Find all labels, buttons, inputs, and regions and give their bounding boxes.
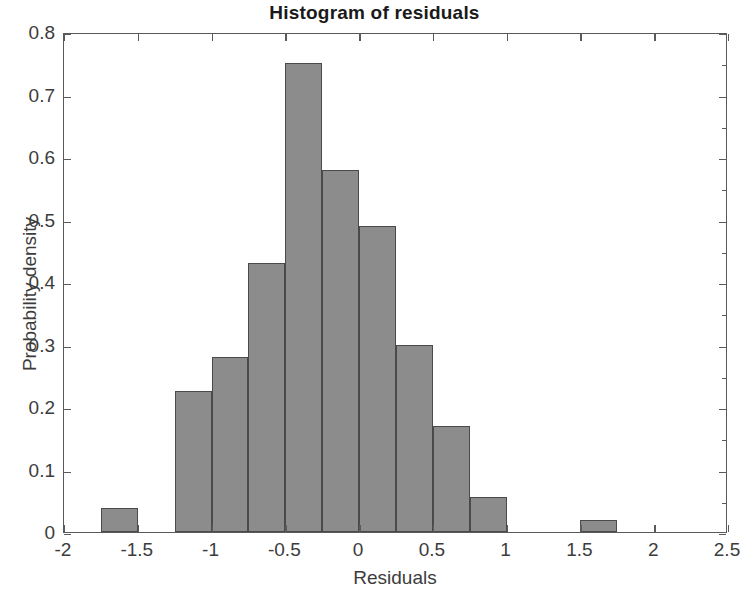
- histogram-bar: [212, 357, 249, 532]
- x-tick-mark-top: [138, 34, 139, 41]
- y-tick-mark: [64, 159, 71, 160]
- y-tick-mark-minor: [722, 65, 726, 66]
- histogram-bar: [285, 63, 322, 532]
- x-tick-mark-top: [580, 34, 581, 41]
- x-tick-mark: [433, 525, 434, 532]
- x-tick-label: -0.5: [268, 539, 301, 561]
- x-tick-mark-top: [654, 34, 655, 41]
- y-axis-label: Probability density: [19, 164, 41, 424]
- y-tick-mark-right: [719, 97, 726, 98]
- bars-layer: [64, 34, 726, 532]
- x-tick-label: -1: [202, 539, 219, 561]
- y-tick-mark-right: [719, 284, 726, 285]
- y-tick-mark-minor: [722, 503, 726, 504]
- x-tick-label: -1.5: [120, 539, 153, 561]
- x-tick-mark: [728, 525, 729, 532]
- y-tick-mark-minor: [722, 315, 726, 316]
- y-tick-mark-right: [719, 347, 726, 348]
- y-tick-label: 0: [3, 522, 55, 544]
- x-tick-mark: [359, 525, 360, 532]
- x-tick-mark-top: [359, 34, 360, 41]
- y-tick-mark-right: [719, 159, 726, 160]
- x-tick-mark: [212, 525, 213, 532]
- x-tick-mark: [580, 525, 581, 532]
- y-tick-mark-right: [719, 472, 726, 473]
- y-tick-mark: [64, 222, 71, 223]
- x-tick-mark: [138, 525, 139, 532]
- y-tick-mark-minor: [722, 128, 726, 129]
- y-tick-mark-minor: [722, 190, 726, 191]
- x-tick-mark-top: [212, 34, 213, 41]
- histogram-bar: [433, 426, 470, 532]
- y-tick-mark: [64, 97, 71, 98]
- y-tick-label: 0.8: [3, 22, 55, 44]
- x-tick-mark-top: [433, 34, 434, 41]
- y-tick-mark: [64, 534, 71, 535]
- histogram-bar: [322, 170, 359, 533]
- y-tick-mark: [64, 472, 71, 473]
- histogram-bar: [359, 226, 396, 532]
- y-tick-mark-right: [719, 34, 726, 35]
- plot-area: [63, 33, 727, 533]
- x-tick-mark: [507, 525, 508, 532]
- y-tick-mark: [64, 347, 71, 348]
- histogram-bar: [470, 497, 507, 532]
- x-tick-mark: [654, 525, 655, 532]
- x-tick-label: 1: [500, 539, 511, 561]
- y-tick-mark-right: [719, 534, 726, 535]
- x-tick-label: 2: [648, 539, 659, 561]
- y-tick-label: 0.1: [3, 460, 55, 482]
- x-tick-label: -2: [55, 539, 72, 561]
- y-tick-mark-right: [719, 409, 726, 410]
- x-tick-mark-top: [728, 34, 729, 41]
- histogram-bar: [175, 391, 212, 532]
- x-tick-label: 0.5: [419, 539, 445, 561]
- x-axis-label: Residuals: [63, 567, 727, 589]
- histogram-bar: [396, 345, 433, 533]
- y-tick-label: 0.7: [3, 85, 55, 107]
- chart-title: Histogram of residuals: [0, 2, 749, 24]
- x-tick-label: 0: [353, 539, 364, 561]
- y-tick-mark: [64, 409, 71, 410]
- y-tick-mark: [64, 284, 71, 285]
- y-tick-mark-minor: [722, 440, 726, 441]
- x-tick-mark: [64, 525, 65, 532]
- y-tick-mark-minor: [722, 378, 726, 379]
- x-tick-label: 2.5: [714, 539, 740, 561]
- histogram-bar: [580, 520, 617, 533]
- histogram-figure: Histogram of residuals -2-1.5-1-0.500.51…: [0, 0, 749, 597]
- x-tick-mark: [285, 525, 286, 532]
- y-tick-mark-minor: [722, 253, 726, 254]
- histogram-bar: [248, 263, 285, 532]
- x-tick-label: 1.5: [566, 539, 592, 561]
- y-tick-mark-right: [719, 222, 726, 223]
- x-tick-mark-top: [285, 34, 286, 41]
- y-tick-mark: [64, 34, 71, 35]
- histogram-bar: [101, 508, 138, 532]
- x-tick-mark-top: [507, 34, 508, 41]
